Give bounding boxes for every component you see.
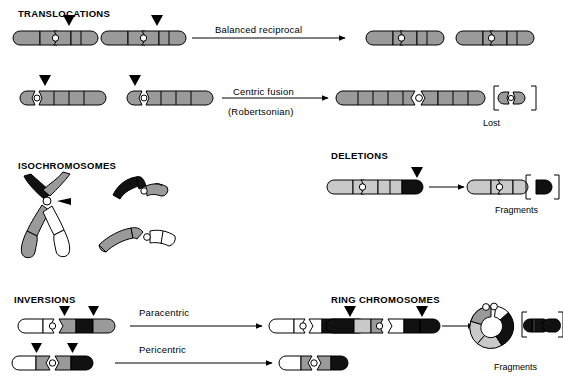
breakpoint-marker-icon [88,306,99,316]
breakpoint-marker-icon [129,75,141,86]
deletion-fragment-bracket-group [526,175,559,199]
diagram-vectors [0,0,563,383]
chromosome-pericentric-input [12,356,93,370]
figure-canvas: TRANSLOCATIONS Balanced reciprocal Centr… [0,0,563,383]
chromosome-deletion-input [327,180,423,194]
isochromosome-derivative-upper [113,177,168,199]
breakpoint-marker-icon [416,306,428,317]
breakpoint-marker-icon [151,15,163,26]
chromosome-pericentric-output [279,356,348,370]
ring-chromosome [470,303,514,348]
lost-fragment [498,92,525,104]
breakpoint-marker-icon [67,343,78,353]
breakpoint-marker-icon [63,15,75,26]
isochromosome-pointer-icon [57,198,71,205]
breakpoint-marker-icon [344,306,356,317]
chromosome-robertsonian-fusion-product [336,91,485,105]
breakpoint-marker-icon [31,343,42,353]
breakpoint-marker-icon [39,75,51,86]
chromosome-acrocentric-input-a [20,91,106,105]
chromosome-paracentric-input [18,319,115,333]
breakpoint-marker-icon [411,167,423,178]
ring-fragment-bracket-group [522,312,563,337]
isochromosome-derivative-lower [99,228,175,252]
chromosome-ring-input [326,319,440,333]
chromosome-translocation-input-a [13,31,98,45]
metaphase-chromosome-x-shape [21,172,71,258]
breakpoint-marker-icon [59,306,70,316]
chromosome-translocation-output-b [456,31,534,45]
lost-fragment-bracket-group [494,86,536,110]
deletion-fragment [536,180,552,194]
chromosome-deletion-output [467,180,528,194]
chromosome-acrocentric-input-b [127,91,213,105]
ring-fragment-right [543,319,561,332]
chromosome-translocation-output-a [366,31,444,45]
chromosome-translocation-input-b [101,31,186,45]
